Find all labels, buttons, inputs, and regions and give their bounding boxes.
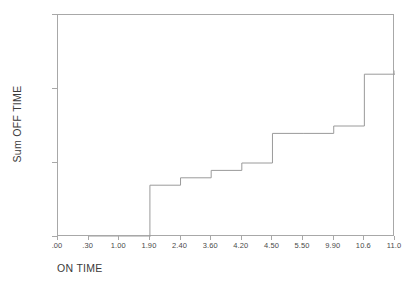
x-tick-mark bbox=[363, 236, 364, 240]
y-axis-title: Sum OFF TIME bbox=[11, 44, 23, 204]
x-tick-mark bbox=[88, 236, 89, 240]
x-tick-label: 1.00 bbox=[101, 241, 135, 250]
x-tick-mark bbox=[210, 236, 211, 240]
x-tick-mark bbox=[241, 236, 242, 240]
x-tick-label: .30 bbox=[71, 241, 105, 250]
step-line-path bbox=[89, 71, 395, 238]
x-tick-mark bbox=[180, 236, 181, 240]
x-tick-label: 11.0 bbox=[377, 241, 411, 250]
x-tick-mark bbox=[333, 236, 334, 240]
x-tick-label: 1.90 bbox=[132, 241, 166, 250]
step-line-chart bbox=[58, 15, 395, 237]
x-tick-label: 4.50 bbox=[254, 241, 288, 250]
x-tick-mark bbox=[271, 236, 272, 240]
x-tick-mark bbox=[57, 236, 58, 240]
x-axis-title: ON TIME bbox=[57, 262, 103, 274]
x-tick-mark bbox=[149, 236, 150, 240]
x-tick-mark bbox=[118, 236, 119, 240]
x-tick-label: 2.40 bbox=[163, 241, 197, 250]
x-tick-mark bbox=[302, 236, 303, 240]
x-tick-label: 3.60 bbox=[193, 241, 227, 250]
x-tick-mark bbox=[394, 236, 395, 240]
plot-area bbox=[57, 14, 394, 236]
x-tick-label: .00 bbox=[40, 241, 74, 250]
x-tick-label: 9.90 bbox=[316, 241, 350, 250]
x-tick-label: 4.20 bbox=[224, 241, 258, 250]
x-tick-label: 5.50 bbox=[285, 241, 319, 250]
x-tick-label: 10.6 bbox=[346, 241, 380, 250]
chart-figure: Sum OFF TIME 0102030 .00.301.001.902.403… bbox=[0, 0, 417, 290]
